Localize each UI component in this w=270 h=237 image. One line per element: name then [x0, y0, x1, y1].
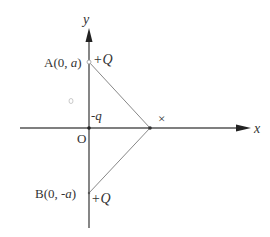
point-x-vertex	[148, 126, 152, 130]
coordinate-diagram: y x O A(0, a) +Q B(0, -a) +Q -q ×	[0, 0, 270, 237]
line-b-to-x	[89, 128, 150, 193]
origin-charge-label: -q	[91, 108, 102, 123]
point-b	[88, 192, 90, 194]
point-origin	[87, 126, 91, 130]
y-axis-arrow-icon	[86, 28, 93, 42]
origin-label: O	[77, 131, 86, 146]
y-axis-label: y	[81, 12, 90, 27]
point-a	[87, 60, 91, 64]
x-axis-arrow-icon	[236, 125, 251, 132]
point-a-charge: +Q	[93, 52, 113, 67]
x-axis-label: x	[253, 121, 261, 136]
cross-mark-icon: ×	[158, 111, 165, 126]
point-b-label: B(0, -a)	[35, 186, 76, 201]
point-a-label: A(0, a)	[44, 55, 82, 70]
point-b-charge: +Q	[91, 191, 111, 206]
faint-mark	[69, 99, 73, 104]
